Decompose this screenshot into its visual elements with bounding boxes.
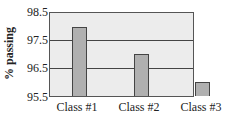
- y-axis-label-text: % passing: [3, 26, 18, 79]
- x-label-class-2: Class #2: [109, 100, 169, 115]
- plot-area: [49, 12, 194, 97]
- bar-class-3: [195, 82, 210, 96]
- y-tick-95-5: 95.5: [20, 91, 48, 103]
- x-label-class-3: Class #3: [171, 100, 231, 115]
- bar-class-1: [72, 27, 87, 96]
- y-tick-98-5: 98.5: [20, 6, 48, 18]
- x-label-class-1: Class #1: [47, 100, 107, 115]
- y-axis-label: % passing: [2, 18, 18, 88]
- y-tick-96-5: 96.5: [20, 62, 48, 74]
- bar-class-2: [134, 54, 149, 96]
- y-tick-97-5: 97.5: [20, 34, 48, 46]
